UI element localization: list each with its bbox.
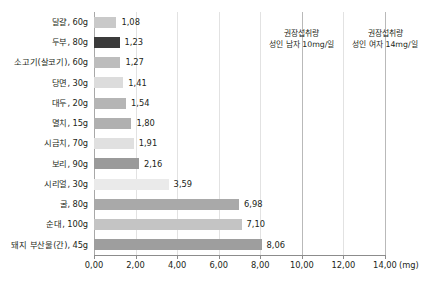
x-tick-mark: [260, 255, 261, 259]
bar-row: 보리, 90g2,16: [0, 154, 442, 174]
bar-value-label: 1,80: [136, 119, 154, 127]
category-label: 시금치, 70g: [0, 139, 88, 147]
bar: [94, 17, 116, 28]
bar-row: 시리얼, 30g3,59: [0, 174, 442, 194]
bar-row: 시금치, 70g1,91: [0, 134, 442, 154]
bar-container: 3,59: [94, 174, 192, 194]
bar-row: 굴, 80g6,98: [0, 194, 442, 214]
category-label: 멸치, 15g: [0, 119, 88, 127]
x-tick-mark: [219, 255, 220, 259]
bar-row: 멸치, 15g1,80: [0, 113, 442, 133]
bar: [94, 98, 126, 109]
bar: [94, 219, 242, 230]
category-label: 시리얼, 30g: [0, 180, 88, 188]
bar-container: 1,08: [94, 12, 140, 32]
bar-container: 1,91: [94, 134, 157, 154]
category-label: 소고기(살코기), 60g: [0, 58, 88, 66]
x-tick-label: 0,00: [85, 261, 103, 269]
bar: [94, 239, 262, 250]
bar: [94, 138, 134, 149]
bar-container: 1,27: [94, 53, 144, 73]
x-tick-label: 8,00: [251, 261, 269, 269]
x-tick-mark: [177, 255, 178, 259]
x-tick-label: 4,00: [168, 261, 186, 269]
bar-value-label: 1,91: [139, 139, 157, 147]
bar-row: 당면, 30g1,41: [0, 73, 442, 93]
bar-value-label: 1,41: [128, 79, 146, 87]
bar-container: 1,41: [94, 73, 147, 93]
bar-row: 소고기(살코기), 60g1,27: [0, 53, 442, 73]
category-label: 굴, 80g: [0, 200, 88, 208]
bar-row: 돼지 부산물(간), 45g8,06: [0, 235, 442, 255]
bar: [94, 37, 120, 48]
bar-value-label: 8,06: [267, 241, 285, 249]
x-axis-line: [94, 255, 386, 256]
annotation-title: 권장섭취량: [333, 28, 437, 39]
bar-container: 8,06: [94, 235, 285, 255]
bar-container: 1,80: [94, 113, 155, 133]
bar-value-label: 1,08: [121, 18, 139, 26]
bar: [94, 118, 131, 129]
bar-row: 대두, 20g1,54: [0, 93, 442, 113]
x-tick-mark: [343, 255, 344, 259]
bar-value-label: 1,23: [125, 38, 143, 46]
x-tick-label: 2,00: [126, 261, 144, 269]
x-tick-mark: [302, 255, 303, 259]
bar: [94, 158, 139, 169]
x-tick-label: 14,00: [373, 261, 397, 269]
bar-container: 1,23: [94, 32, 143, 52]
bar-container: 2,16: [94, 154, 162, 174]
x-tick-label: 6,00: [209, 261, 227, 269]
category-label: 보리, 90g: [0, 160, 88, 168]
iron-content-bar-chart: 달걀, 60g1,08두부, 80g1,23소고기(살코기), 60g1,27당…: [0, 0, 442, 285]
bar-value-label: 2,16: [144, 160, 162, 168]
category-label: 달걀, 60g: [0, 18, 88, 26]
x-tick-mark: [136, 255, 137, 259]
category-label: 대두, 20g: [0, 99, 88, 107]
bar: [94, 57, 120, 68]
bar: [94, 179, 169, 190]
bar-container: 6,98: [94, 194, 263, 214]
bar-row: 순대, 100g7,10: [0, 215, 442, 235]
reference-annotation: 권장섭취량성인 여자 14mg/일: [333, 28, 437, 51]
x-tick-label: 10,00: [290, 261, 314, 269]
bar-container: 1,54: [94, 93, 149, 113]
bar-value-label: 6,98: [244, 200, 262, 208]
bar-container: 7,10: [94, 215, 265, 235]
category-label: 두부, 80g: [0, 38, 88, 46]
x-tick-mark: [94, 255, 95, 259]
bar: [94, 77, 123, 88]
x-axis-unit-label: (mg): [399, 261, 419, 269]
bar-value-label: 1,27: [125, 58, 143, 66]
annotation-detail: 성인 여자 14mg/일: [333, 39, 437, 50]
bar-value-label: 1,54: [131, 99, 149, 107]
bar-value-label: 7,10: [247, 220, 265, 228]
x-tick-label: 12,00: [332, 261, 356, 269]
bar-value-label: 3,59: [174, 180, 192, 188]
x-tick-mark: [385, 255, 386, 259]
bar: [94, 199, 239, 210]
category-label: 순대, 100g: [0, 220, 88, 228]
category-label: 당면, 30g: [0, 79, 88, 87]
category-label: 돼지 부산물(간), 45g: [0, 241, 88, 249]
